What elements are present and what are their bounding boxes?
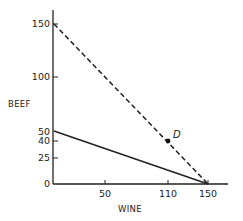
x-tick-150: 150 xyxy=(199,188,217,199)
y-tick-100: 100 xyxy=(32,71,50,82)
y-axis-label: BEEF xyxy=(8,99,31,109)
point-d-label: D xyxy=(173,129,181,140)
x-tick-50: 50 xyxy=(99,188,111,199)
x-tick-110: 110 xyxy=(159,188,177,199)
y-tick-25: 25 xyxy=(38,152,50,163)
y-tick-40: 40 xyxy=(38,135,50,146)
x-axis-label: WINE xyxy=(118,204,142,214)
y-tick-0: 0 xyxy=(44,178,50,189)
y-tick-150: 150 xyxy=(32,18,50,29)
chart: 150 100 50 40 25 0 50 110 150 BEEF WINE … xyxy=(0,0,243,221)
point-d xyxy=(166,139,171,144)
solid-line xyxy=(54,131,208,184)
dashed-line xyxy=(54,24,208,184)
